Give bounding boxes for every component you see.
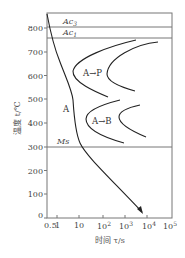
- region-austenite-label: A: [62, 104, 70, 114]
- y-axis-tick-labels: 0 100 200 300 400 500 600 700 800: [28, 24, 43, 220]
- svg-text:104: 104: [142, 220, 156, 231]
- svg-text:103: 103: [119, 220, 133, 231]
- svg-text:400: 400: [28, 119, 43, 128]
- ms-label: Ms: [56, 137, 69, 146]
- pearlite-finish-curve: [107, 42, 158, 91]
- ac3-label: Ac3: [62, 17, 77, 27]
- svg-text:600: 600: [28, 72, 43, 81]
- x-axis-label: 时间 τ/s: [95, 235, 125, 245]
- svg-text:300: 300: [28, 143, 43, 152]
- region-pearlite-label: A→P: [82, 68, 102, 78]
- cooling-curve: [47, 14, 142, 212]
- svg-text:800: 800: [28, 24, 43, 33]
- svg-text:100: 100: [28, 190, 43, 199]
- region-bainite-label: A→B: [91, 116, 112, 126]
- svg-text:0: 0: [38, 211, 43, 220]
- svg-text:102: 102: [97, 220, 111, 231]
- svg-text:10: 10: [74, 221, 84, 230]
- svg-text:200: 200: [28, 167, 43, 176]
- ac1-label: Ac1: [62, 28, 77, 38]
- cct-diagram: Ac3 Ac1 Ms 0 100 200 300 400 500 600 700…: [0, 0, 185, 258]
- bainite-finish-curve: [119, 105, 146, 137]
- y-axis-label: 温度 t/℃: [12, 101, 22, 134]
- svg-text:700: 700: [28, 48, 43, 57]
- svg-text:105: 105: [163, 220, 177, 231]
- svg-text:500: 500: [28, 95, 43, 104]
- svg-text:1: 1: [55, 221, 60, 230]
- x-axis-tick-labels: 0.5 1 10 102 103 104 105: [44, 220, 177, 231]
